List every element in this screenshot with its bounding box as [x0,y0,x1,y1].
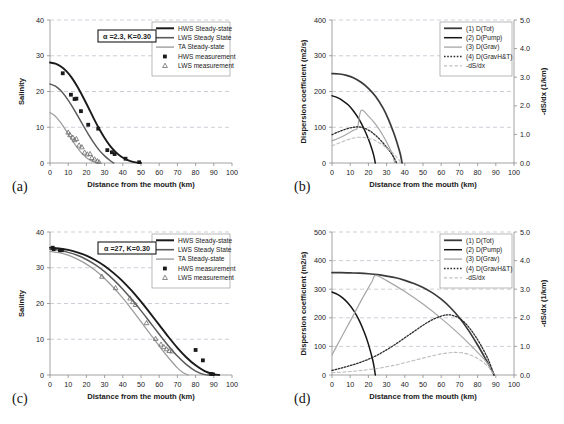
svg-text:30: 30 [36,51,44,60]
svg-text:300: 300 [314,285,326,294]
data-point-marker [61,71,65,75]
svg-text:500: 500 [314,228,326,237]
svg-text:3.0: 3.0 [520,285,530,294]
svg-text:40: 40 [36,16,44,25]
svg-text:80: 80 [474,168,482,177]
svg-text:40: 40 [119,380,127,389]
svg-text:50: 50 [137,168,145,177]
chart-svg-d: 010203040506070809010001002003004005000.… [282,212,564,424]
x-axis-ticks: 0102030405060708090100 [330,375,520,389]
y-axis-ticks: 0100200300400 [314,16,332,168]
svg-text:2.0: 2.0 [520,101,530,110]
svg-text:400: 400 [314,16,326,25]
svg-text:0.0: 0.0 [520,371,530,380]
legend-label: (4) D(GravH&T) [466,53,513,61]
svg-text:(a): (a) [12,179,28,195]
series-line [332,74,402,163]
svg-text:30: 30 [383,168,391,177]
svg-text:100: 100 [226,380,238,389]
legend-label: HWS Steady-state [178,25,233,33]
legend-label: LWS measurement [178,62,234,69]
figure-container: 0102030405060708090100010203040Distance … [0,0,564,424]
svg-text:70: 70 [173,380,181,389]
svg-text:20: 20 [36,87,44,96]
x-axis-ticks: 0102030405060708090100 [48,375,238,389]
svg-text:10: 10 [64,168,72,177]
svg-text:90: 90 [210,380,218,389]
legend-label: (2) D(Pump) [466,246,502,254]
svg-text:Distance from the mouth (km): Distance from the mouth (km) [369,392,477,401]
data-point-marker [69,93,73,97]
svg-text:70: 70 [455,168,463,177]
series-line [332,292,375,375]
legend-label: (4) D(GravH&T) [466,265,513,273]
legend-label: TA Steady-state [178,255,225,263]
legend-label: (2) D(Pump) [466,34,502,42]
svg-text:90: 90 [492,380,500,389]
svg-text:200: 200 [314,313,326,322]
svg-text:0: 0 [330,380,334,389]
series-line [50,63,141,163]
svg-text:70: 70 [173,168,181,177]
legend-label: HWS measurement [178,265,236,272]
svg-text:4.0: 4.0 [520,44,530,53]
data-point-marker [96,127,100,131]
legend: (1) D(Tot)(2) D(Pump)(3) D(Grav)(4) D(Gr… [440,22,513,76]
x-axis-ticks: 0102030405060708090100 [48,163,238,177]
svg-text:100: 100 [314,342,326,351]
y-axis-right-ticks: 0.01.02.03.04.05.0-dS/dx (1/km) [514,228,548,380]
svg-text:(c): (c) [12,391,28,407]
svg-text:100: 100 [508,168,520,177]
svg-text:20: 20 [82,380,90,389]
svg-text:100: 100 [508,380,520,389]
svg-text:50: 50 [419,380,427,389]
svg-text:90: 90 [210,168,218,177]
svg-text:0: 0 [330,168,334,177]
svg-text:Dispersion coefficient (m2/s): Dispersion coefficient (m2/s) [299,39,308,143]
y-axis-ticks: 010203040 [36,228,50,380]
legend-label: LWS measurement [178,274,234,281]
svg-text:40: 40 [36,228,44,237]
legend-label: (1) D(Tot) [466,25,494,33]
series-line [332,275,494,375]
legend-label: (1) D(Tot) [466,237,494,245]
svg-text:10: 10 [64,380,72,389]
svg-text:10: 10 [36,123,44,132]
series-line [332,127,397,163]
svg-text:Distance from the mouth (km): Distance from the mouth (km) [87,392,195,401]
legend-label: TA Steady-state [178,43,225,51]
svg-text:30: 30 [101,168,109,177]
data-point-marker [105,148,109,152]
svg-text:50: 50 [419,168,427,177]
chart-panel-a: 0102030405060708090100010203040Distance … [0,0,282,212]
data-point-marker [86,123,90,127]
svg-text:Dispersion coefficient (m2/s): Dispersion coefficient (m2/s) [299,251,308,355]
svg-text:40: 40 [119,168,127,177]
svg-text:-dS/dx (1/km): -dS/dx (1/km) [539,67,548,115]
data-series-group [50,63,141,165]
chart-svg-c: 0102030405060708090100010203040Distance … [0,212,282,424]
svg-text:5.0: 5.0 [520,16,530,25]
svg-text:3.0: 3.0 [520,73,530,82]
data-point-marker [52,247,56,251]
svg-text:20: 20 [36,299,44,308]
svg-text:Salinity: Salinity [17,289,26,317]
svg-text:20: 20 [364,380,372,389]
svg-text:300: 300 [314,51,326,60]
svg-text:80: 80 [474,380,482,389]
data-point-marker [159,342,164,346]
svg-text:1.0: 1.0 [520,130,530,139]
legend-label: (3) D(Grav) [466,255,499,263]
annotation-text: α =27, K=0.30 [104,244,150,253]
chart-panel-c: 0102030405060708090100010203040Distance … [0,212,282,424]
svg-text:30: 30 [36,263,44,272]
chart-panel-b: 010203040506070809010001002003004000.01.… [282,0,564,212]
legend-label: LWS Steady State [178,34,232,42]
svg-text:10: 10 [36,335,44,344]
y-axis-ticks: 0100200300400500 [314,228,332,380]
legend-swatch-square [163,267,167,271]
svg-text:0: 0 [48,168,52,177]
svg-text:-dS/dx (1/km): -dS/dx (1/km) [539,279,548,327]
svg-text:0: 0 [40,371,44,380]
svg-text:0: 0 [322,159,326,168]
